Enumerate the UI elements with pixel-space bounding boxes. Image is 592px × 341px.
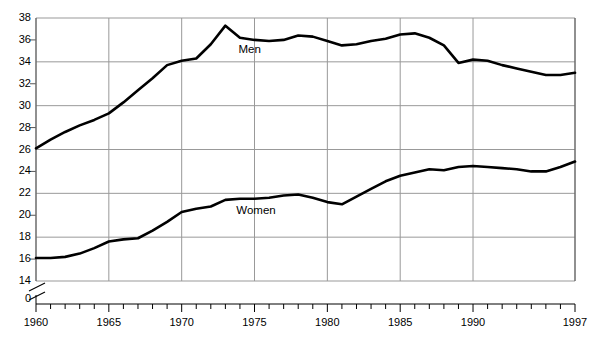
y-axis-tick-label: 36 (7, 33, 31, 45)
y-axis-break-slash (29, 283, 45, 291)
y-axis-tick-label: 22 (7, 186, 31, 198)
y-axis-tick-label: 30 (7, 99, 31, 111)
x-axis-tick-label: 1980 (304, 316, 350, 328)
y-axis-tick-label: 24 (7, 164, 31, 176)
x-axis-tick-label: 1997 (552, 316, 592, 328)
series-line-women (36, 162, 575, 258)
x-axis-tick-label: 1965 (86, 316, 132, 328)
x-axis-tick-label: 1990 (450, 316, 496, 328)
y-axis-tick-label: 26 (7, 143, 31, 155)
y-axis-tick-label: 38 (7, 11, 31, 23)
y-axis-tick-label: 18 (7, 230, 31, 242)
y-axis-tick-label: 14 (7, 274, 31, 286)
x-axis-tick-label: 1960 (13, 316, 59, 328)
y-axis-tick-label: 16 (7, 252, 31, 264)
y-axis-zero-label: 0 (7, 292, 31, 304)
x-axis-tick-label: 1970 (159, 316, 205, 328)
x-axis-tick-label: 1975 (232, 316, 278, 328)
y-axis-tick-label: 34 (7, 55, 31, 67)
x-axis-tick-label: 1985 (377, 316, 423, 328)
series-label-men: Men (239, 43, 261, 55)
y-axis-tick-label: 28 (7, 121, 31, 133)
y-axis-tick-label: 20 (7, 208, 31, 220)
series-label-women: Women (236, 204, 275, 216)
y-axis-break-slash (29, 292, 45, 300)
series-line-men (36, 26, 575, 149)
y-axis-tick-label: 32 (7, 77, 31, 89)
